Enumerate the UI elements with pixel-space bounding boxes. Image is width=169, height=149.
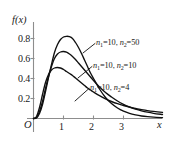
series-1-n1-value: 10	[105, 61, 113, 70]
y-tick-label-0.4: 0.4	[8, 73, 30, 84]
curve-series-0	[34, 36, 163, 118]
x-tick-label-2: 2	[89, 121, 94, 132]
curves-group	[34, 36, 163, 118]
series-annotation-1: n1=10, n2=10	[93, 61, 136, 71]
y-axis-label: f(x)	[12, 14, 27, 25]
series-2-n2-value: 4	[125, 83, 129, 92]
series-0-n2-value: 50	[131, 38, 139, 47]
origin-label: O	[24, 119, 32, 130]
y-tick-label-0.8: 0.8	[8, 33, 30, 44]
series-2-n1-value: 10	[102, 83, 110, 92]
y-tick-label-0.6: 0.6	[8, 53, 30, 64]
x-tick-label-3: 3	[119, 121, 124, 132]
leader-line-series-0	[83, 44, 95, 54]
series-0-n1-value: 10	[108, 38, 116, 47]
f-distribution-chart: f(x) x O 0.8 0.6 0.4 0.2 1 2 3 n1=10, n2…	[0, 0, 169, 149]
y-tick-label-0.2: 0.2	[8, 93, 30, 104]
series-annotation-0: n1=10, n2=50	[96, 38, 139, 48]
x-axis-label: x	[157, 119, 162, 130]
series-1-n2-value: 10	[128, 61, 136, 70]
x-tick-label-1: 1	[59, 121, 64, 132]
series-annotation-2: n1=10, n2=4	[90, 83, 129, 93]
leader-line-series-2	[75, 89, 89, 102]
